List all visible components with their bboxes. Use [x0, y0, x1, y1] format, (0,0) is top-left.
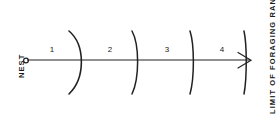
band-arc-3 [190, 31, 193, 94]
band-arc-4 [244, 31, 246, 94]
segment-label-4: 4 [220, 45, 224, 54]
diagram-canvas [0, 0, 279, 119]
band-arc-2 [132, 31, 138, 94]
band-arc-1 [69, 31, 81, 94]
foraging-range-figure: NEST LIMIT OF FORAGING RANGE 1 2 3 4 [0, 0, 279, 119]
limit-of-foraging-range-label: LIMIT OF FORAGING RANGE [268, 0, 277, 114]
segment-label-1: 1 [50, 45, 54, 54]
segment-label-3: 3 [165, 45, 169, 54]
segment-label-2: 2 [108, 45, 112, 54]
nest-label: NEST [17, 54, 26, 78]
